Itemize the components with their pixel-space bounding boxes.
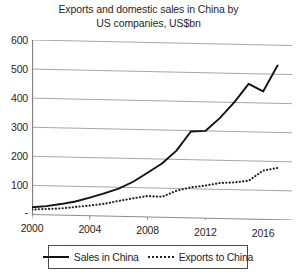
x-axis-tick-label: 2016 <box>252 227 275 239</box>
chart-container: Exports and domestic sales in China by U… <box>0 0 297 280</box>
chart-title: Exports and domestic sales in China by U… <box>0 3 297 30</box>
plot-area <box>32 40 292 220</box>
gridline <box>32 40 292 46</box>
gridline <box>32 185 292 191</box>
dotted-line-icon <box>148 256 174 258</box>
gridline <box>32 98 292 104</box>
legend-item-exports-to-china[interactable]: Exports to China <box>148 252 253 263</box>
y-axis-tick-label: - <box>25 207 28 218</box>
x-axis-tick-label: 2008 <box>136 224 159 236</box>
chart-title-line-2: US companies, US$bn <box>0 17 297 31</box>
gridline <box>32 215 292 221</box>
chart-legend: Sales in China Exports to China <box>48 245 248 269</box>
gridline <box>32 156 292 162</box>
y-axis-tick-label: 100 <box>11 180 28 191</box>
x-axis-tick-label: 2000 <box>21 222 44 234</box>
x-axis-tick-label: 2012 <box>194 226 217 238</box>
legend-item-sales-in-china[interactable]: Sales in China <box>43 252 139 263</box>
x-axis-tick-labels: 20002004200820122016 <box>0 222 297 240</box>
gridline <box>32 127 292 133</box>
y-axis-tick-label: 400 <box>11 93 28 104</box>
legend-label: Sales in China <box>74 252 139 263</box>
solid-line-icon <box>43 256 69 258</box>
gridline <box>32 69 292 74</box>
y-axis-tick-label: 500 <box>11 64 28 75</box>
y-axis-tick-label: 200 <box>11 151 28 162</box>
chart-title-line-1: Exports and domestic sales in China by <box>0 3 297 17</box>
x-axis-tick-label: 2004 <box>78 223 101 235</box>
y-axis-tick-label: 600 <box>11 35 28 46</box>
y-axis-tick-label: 300 <box>11 122 28 133</box>
legend-label: Exports to China <box>179 252 253 263</box>
chart-plot-svg <box>32 40 292 220</box>
